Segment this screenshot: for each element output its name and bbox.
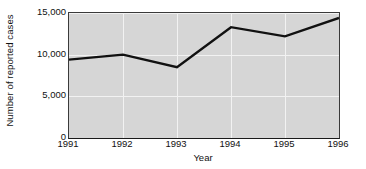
plot-area	[68, 12, 340, 139]
y-axis-title-text: Number of reported cases	[4, 14, 15, 126]
x-axis-tick-label: 1992	[111, 139, 132, 149]
x-axis-tick-label: 1993	[165, 139, 186, 149]
x-axis-tick-label: 1995	[273, 139, 294, 149]
x-axis-tick-label: 1996	[327, 139, 348, 149]
x-axis-tick-label: 1991	[57, 139, 78, 149]
x-axis-tick-label: 1994	[219, 139, 240, 149]
y-axis-tick-label: 5,000	[20, 91, 66, 101]
data-line-series	[69, 13, 339, 138]
x-axis-title: Year	[68, 152, 338, 163]
y-axis-tick-label: 15,000	[20, 7, 66, 17]
series-reported-cases	[69, 18, 339, 67]
y-axis-title: Number of reported cases	[0, 0, 18, 140]
chart-figure: Number of reported cases 05,00010,00015,…	[0, 0, 366, 169]
plot-inner	[69, 13, 339, 138]
y-axis-tick-label: 10,000	[20, 49, 66, 59]
x-axis-tick-labels: 199119921993199419951996	[0, 139, 366, 153]
